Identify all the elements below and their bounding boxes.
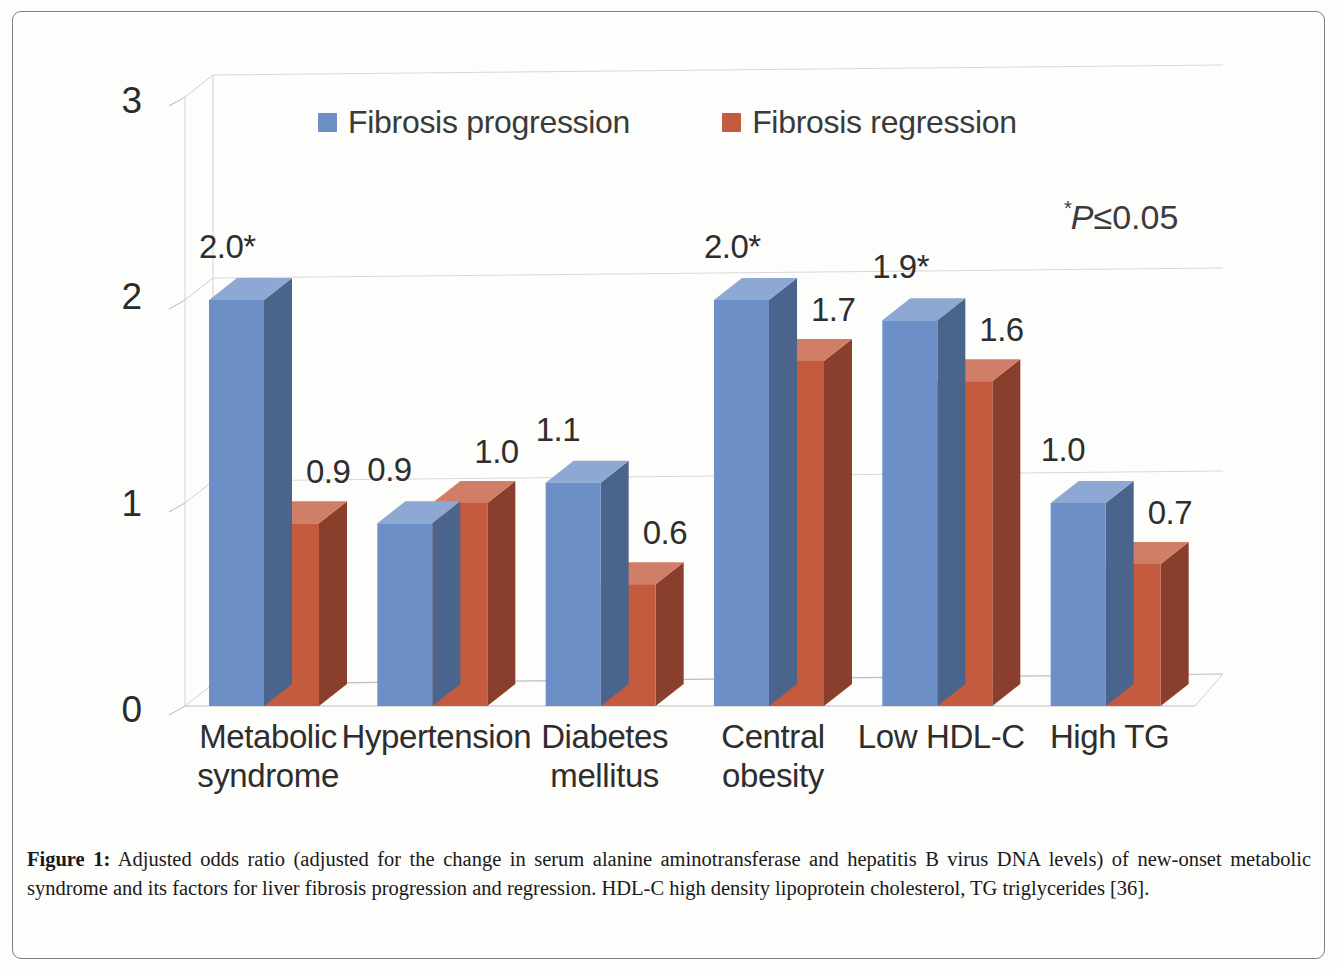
gridline-depth-1 <box>185 481 213 503</box>
significance-annotation: *P≤0.05 <box>1063 198 1178 237</box>
bar-fibrosis-progression-0 <box>209 278 292 706</box>
bar-side-face <box>937 298 965 706</box>
bar-side-face <box>824 339 852 706</box>
bar-side-face <box>487 481 515 706</box>
figure-caption: Figure 1: Adjusted odds ratio (adjusted … <box>27 845 1311 903</box>
gridline-depth-2 <box>185 278 213 300</box>
y-tick-mark-2 <box>169 300 185 309</box>
x-axis-label-line: High TG <box>995 718 1225 757</box>
bar-side-face <box>769 278 797 706</box>
x-axis-label-line: obesity <box>658 757 888 796</box>
chart-legend: Fibrosis progression Fibrosis regression <box>318 104 1017 141</box>
bar-side-face <box>319 501 347 706</box>
floor-right-edge <box>1195 674 1223 706</box>
x-axis-label-5: High TG <box>995 718 1225 757</box>
p-italic: P <box>1071 198 1094 236</box>
y-tick-3: 3 <box>96 80 142 122</box>
gridline-2 <box>213 268 1223 278</box>
value-label-fibrosis-regression-3: 1.7 <box>811 291 855 329</box>
y-tick-2: 2 <box>96 276 142 318</box>
caption-body: Adjusted odds ratio (adjusted for the ch… <box>27 848 1311 899</box>
y-tick-mark-1 <box>169 503 185 512</box>
significance-star: * <box>1064 197 1072 219</box>
legend-label-fibrosis-progression: Fibrosis progression <box>348 104 630 141</box>
bar-front-face <box>882 320 937 706</box>
bar-front-face <box>377 523 432 706</box>
value-label-fibrosis-regression-5: 0.7 <box>1148 494 1192 532</box>
gridline-depth-0 <box>185 684 213 706</box>
value-label-fibrosis-progression-2: 1.1 <box>536 411 580 449</box>
bar-fibrosis-progression-5 <box>1051 481 1134 706</box>
value-label-fibrosis-progression-4: 1.9* <box>872 248 929 286</box>
y-tick-mark-3 <box>169 97 185 106</box>
bar-side-face <box>992 359 1020 706</box>
caption-figure-label: Figure 1: <box>27 848 110 870</box>
legend-item-fibrosis-regression: Fibrosis regression <box>722 104 1017 141</box>
legend-label-fibrosis-regression: Fibrosis regression <box>752 104 1017 141</box>
significance-text: P≤0.05 <box>1071 198 1179 236</box>
y-tick-mark-0 <box>169 706 185 715</box>
gridline-depth-3 <box>185 75 213 97</box>
value-label-fibrosis-progression-1: 0.9 <box>367 451 411 489</box>
value-label-fibrosis-progression-3: 2.0* <box>704 228 761 266</box>
bar-fibrosis-progression-3 <box>714 278 797 706</box>
bar-side-face <box>1161 542 1189 706</box>
bar-fibrosis-progression-2 <box>546 461 629 706</box>
bar-front-face <box>209 300 264 706</box>
bars <box>209 278 1189 706</box>
y-tick-1: 1 <box>96 483 142 525</box>
bar-fibrosis-progression-1 <box>377 501 460 706</box>
figure-page: 3 2 1 0 Fibrosis progression Fibrosis re… <box>0 0 1337 970</box>
bar-side-face <box>432 501 460 706</box>
legend-swatch-red <box>722 113 741 132</box>
legend-item-fibrosis-progression: Fibrosis progression <box>318 104 630 141</box>
bar-side-face <box>264 278 292 706</box>
bar-side-face <box>656 562 684 706</box>
bar-front-face <box>714 300 769 706</box>
bar-fibrosis-progression-4 <box>882 298 965 706</box>
x-axis-label-line: syndrome <box>153 757 383 796</box>
value-label-fibrosis-regression-4: 1.6 <box>979 311 1023 349</box>
value-label-fibrosis-regression-1: 1.0 <box>474 433 518 471</box>
p-threshold: ≤0.05 <box>1093 198 1178 236</box>
y-tick-0: 0 <box>96 689 142 731</box>
bar-side-face <box>601 461 629 706</box>
value-label-fibrosis-progression-0: 2.0* <box>199 228 256 266</box>
value-label-fibrosis-regression-0: 0.9 <box>306 453 350 491</box>
value-label-fibrosis-progression-5: 1.0 <box>1041 431 1085 469</box>
bar-front-face <box>546 483 601 706</box>
bar-side-face <box>1106 481 1134 706</box>
bar-front-face <box>1051 503 1106 706</box>
gridline-3 <box>213 65 1223 75</box>
value-label-fibrosis-regression-2: 0.6 <box>643 514 687 552</box>
bar-chart: 3 2 1 0 Fibrosis progression Fibrosis re… <box>0 0 1337 828</box>
legend-swatch-blue <box>318 113 337 132</box>
